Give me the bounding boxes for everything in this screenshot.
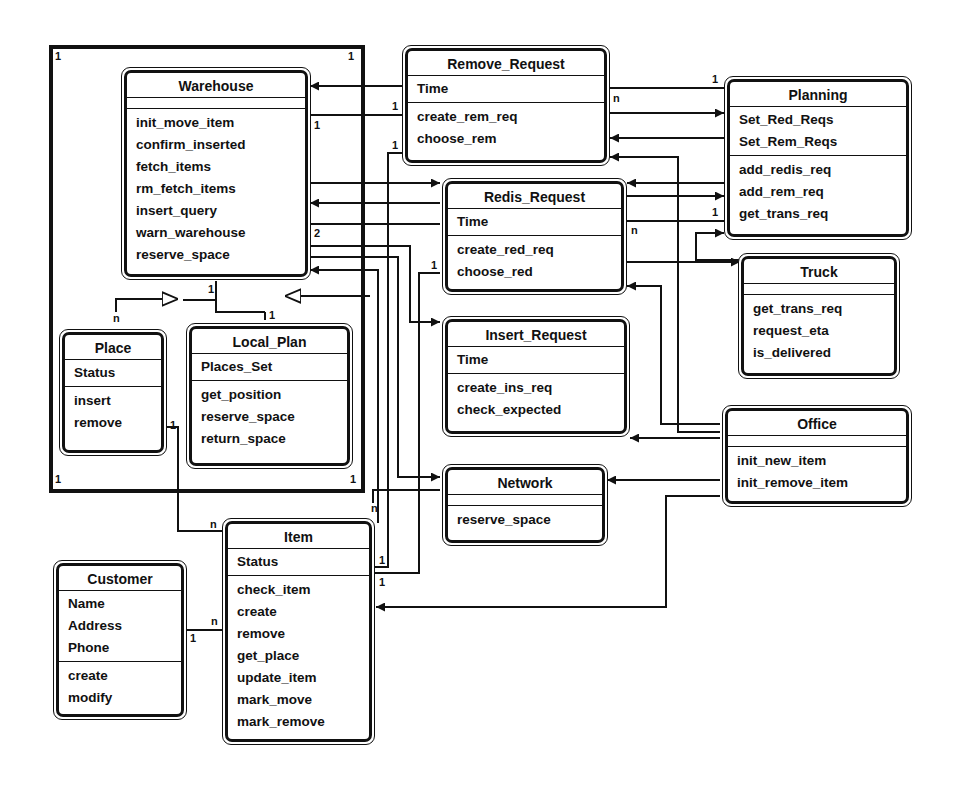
uml-class-diagram: 1 1 1 1: [0, 0, 963, 789]
operation: choose_rem: [417, 128, 595, 150]
operation: create_red_req: [457, 239, 612, 261]
mult-rr-item: 1: [392, 140, 398, 151]
operation: confirm_inserted: [136, 134, 296, 156]
attribute: Time: [417, 78, 595, 100]
class-office[interactable]: Office init_new_item init_remove_item: [722, 405, 912, 507]
class-attributes: Time: [448, 209, 621, 236]
class-insert-request[interactable]: Insert_Request Time create_ins_req check…: [442, 316, 630, 437]
class-operations: create modify: [59, 662, 181, 711]
class-place[interactable]: Place Status insert remove: [59, 329, 167, 456]
class-attributes: [127, 98, 305, 109]
operation: add_redis_req: [739, 159, 897, 181]
attribute: Status: [74, 362, 152, 384]
operation: is_delivered: [753, 342, 885, 364]
attribute: Time: [457, 349, 615, 371]
class-operations: init_new_item init_remove_item: [728, 447, 906, 496]
class-truck[interactable]: Truck get_trans_req request_eta is_deliv…: [738, 253, 900, 379]
mult-rr-wh: 1: [392, 101, 398, 112]
operation: choose_red: [457, 261, 612, 283]
operation: fetch_items: [136, 156, 296, 178]
mult-red-item: 1: [431, 260, 437, 271]
mult-item-rr-1: 1: [379, 555, 385, 566]
class-attributes: [448, 495, 602, 506]
operation: init_move_item: [136, 112, 296, 134]
operation: update_item: [237, 667, 360, 689]
class-title: Local_Plan: [192, 329, 347, 354]
class-network[interactable]: Network reserve_space: [442, 464, 608, 546]
class-planning[interactable]: Planning Set_Red_Reqs Set_Rem_Reqs add_r…: [724, 76, 912, 240]
class-local-plan[interactable]: Local_Plan Places_Set get_position reser…: [186, 323, 353, 469]
class-attributes: Time: [448, 347, 624, 374]
operation: warn_warehouse: [136, 222, 296, 244]
operation: remove: [74, 412, 152, 434]
class-operations: add_redis_req add_rem_req get_trans_req: [730, 156, 906, 227]
operation: insert: [74, 390, 152, 412]
operation: check_expected: [457, 399, 615, 421]
operation: reserve_space: [136, 244, 296, 266]
operation: reserve_space: [457, 509, 593, 531]
class-attributes: Name Address Phone: [59, 591, 181, 662]
operation: init_remove_item: [737, 472, 897, 494]
operation: create_ins_req: [457, 377, 615, 399]
operation: return_space: [201, 428, 338, 450]
mult-place-n: n: [113, 313, 120, 324]
operation: create: [237, 601, 360, 623]
class-title: Office: [728, 411, 906, 436]
operation: create: [68, 665, 172, 687]
mult-plan-rr-1: 1: [712, 74, 718, 85]
mult-wh-parts: 1: [208, 284, 214, 295]
operation: reserve_space: [201, 406, 338, 428]
attribute: Set_Red_Reqs: [739, 109, 897, 131]
class-operations: get_trans_req request_eta is_delivered: [744, 295, 894, 366]
attribute: Places_Set: [201, 356, 338, 378]
mult-item-wh-n: n: [371, 503, 378, 514]
attribute: Set_Rem_Reqs: [739, 131, 897, 153]
mult-plan-red-1: 1: [712, 207, 718, 218]
mult-cust-1: 1: [190, 633, 196, 644]
class-operations: reserve_space: [448, 506, 602, 533]
mult-item-place-n: n: [210, 519, 217, 530]
mult-place-item-1: 1: [170, 420, 176, 431]
operation: init_new_item: [737, 450, 897, 472]
operation: insert_query: [136, 200, 296, 222]
class-attributes: Status: [228, 549, 369, 576]
frame-mult-top-right: 1: [348, 51, 354, 62]
class-title: Customer: [59, 566, 181, 591]
class-operations: create_red_req choose_red: [448, 236, 621, 285]
class-title: Warehouse: [127, 73, 305, 98]
mult-item-red-1: 1: [379, 577, 385, 588]
class-title: Planning: [730, 82, 906, 107]
class-item[interactable]: Item Status check_item create remove get…: [222, 518, 375, 745]
class-operations: get_position reserve_space return_space: [192, 381, 347, 452]
class-title: Item: [228, 524, 369, 549]
operation: remove: [237, 623, 360, 645]
class-attributes: Set_Red_Reqs Set_Rem_Reqs: [730, 107, 906, 156]
class-title: Place: [65, 335, 161, 360]
operation: rm_fetch_items: [136, 178, 296, 200]
class-attributes: Time: [408, 76, 604, 103]
class-attributes: [744, 284, 894, 295]
operation: get_trans_req: [753, 298, 885, 320]
operation: add_rem_req: [739, 181, 897, 203]
class-remove-request[interactable]: Remove_Request Time create_rem_req choos…: [402, 45, 610, 166]
operation: get_place: [237, 645, 360, 667]
class-title: Remove_Request: [408, 51, 604, 76]
class-title: Redis_Request: [448, 184, 621, 209]
mult-red-plan-n: n: [631, 225, 638, 236]
class-attributes: Places_Set: [192, 354, 347, 381]
operation: mark_move: [237, 689, 360, 711]
mult-item-cust-n: n: [211, 616, 218, 627]
class-customer[interactable]: Customer Name Address Phone create modif…: [53, 560, 187, 720]
operation: get_position: [201, 384, 338, 406]
mult-wh-rr: 1: [314, 120, 320, 131]
class-warehouse[interactable]: Warehouse init_move_item confirm_inserte…: [121, 67, 311, 280]
operation: check_item: [237, 579, 360, 601]
attribute: Time: [457, 211, 612, 233]
attribute: Status: [237, 551, 360, 573]
class-redis-request[interactable]: Redis_Request Time create_red_req choose…: [442, 178, 627, 295]
mult-lp-1: 1: [269, 310, 275, 321]
mult-wh-2: 2: [314, 228, 320, 239]
attribute: Address: [68, 615, 172, 637]
class-attributes: Status: [65, 360, 161, 387]
attribute: Phone: [68, 637, 172, 659]
